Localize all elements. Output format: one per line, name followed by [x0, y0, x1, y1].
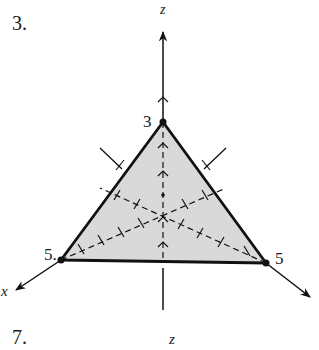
- centroid: [161, 193, 165, 197]
- vertex-z: [160, 119, 167, 126]
- z-intercept-label: 3: [143, 113, 152, 130]
- x-axis: [16, 260, 61, 290]
- x-axis-label: x: [1, 284, 8, 299]
- problem-number: 3.: [12, 13, 27, 33]
- y-intercept-label: 5: [275, 250, 284, 267]
- next-problem-number: 7.: [12, 327, 27, 347]
- z-axis-label: z: [160, 3, 165, 17]
- vertex-x: [58, 257, 65, 264]
- next-z-axis-label: z: [169, 332, 175, 347]
- vertex-y: [263, 260, 270, 267]
- plane-diagram: [0, 0, 319, 350]
- x-intercept-label: 5.: [44, 246, 57, 263]
- y-axis: [266, 263, 310, 297]
